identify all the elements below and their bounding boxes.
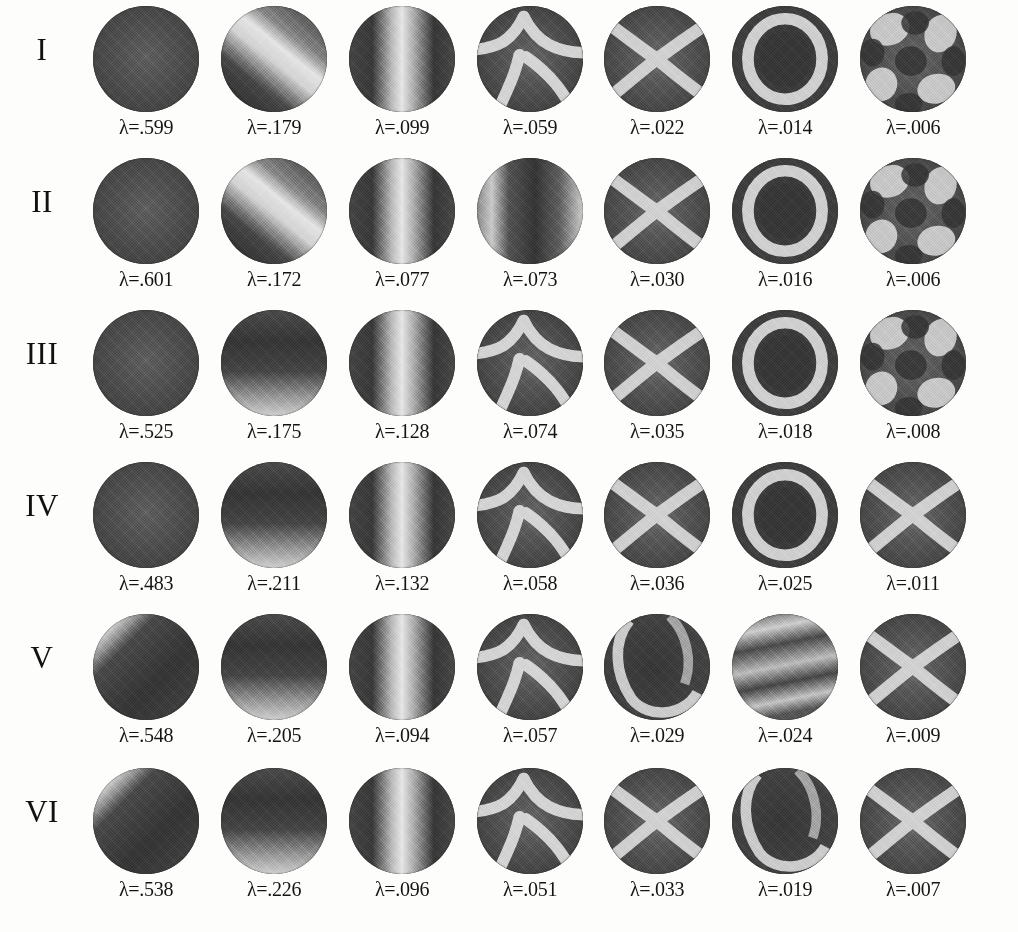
eigenmode-disk [93,158,199,264]
eigenmode-image [349,6,455,112]
eigenmode-image [732,6,838,112]
eigenvalue-label: λ=.094 [338,722,466,748]
eigenmode-image [860,462,966,568]
eigenmode-image [349,158,455,264]
eigenmode-cell: λ=.483 [82,456,210,608]
eigenvalue-label: λ=.538 [82,876,210,902]
eigenmode-cell: λ=.599 [82,0,210,152]
eigenmode-image [221,6,327,112]
eigenmode-disk [221,6,327,112]
eigenvalue-label: λ=.025 [721,570,849,596]
eigenmode-disk [732,462,838,568]
eigenmode-cell: λ=.099 [338,0,466,152]
eigenmode-figure: Iλ=.599λ=.179λ=.099λ=.059λ=.022λ=.014λ=.… [0,0,1018,932]
eigenmode-image [477,158,583,264]
eigenvalue-label: λ=.059 [466,114,594,140]
row-label-iv: IV [0,484,84,528]
eigenvalue-label: λ=.009 [849,722,977,748]
row-label-iii: III [0,332,84,376]
eigenmode-disk [477,462,583,568]
eigenvalue-label: λ=.016 [721,266,849,292]
eigenmode-disk [477,310,583,416]
eigenmode-disk [349,768,455,874]
eigenmode-image [604,310,710,416]
eigenmode-disk [860,614,966,720]
eigenmode-cell: λ=.175 [210,304,338,456]
eigenmode-cell: λ=.007 [849,762,977,914]
eigenvalue-label: λ=.057 [466,722,594,748]
eigenvalue-label: λ=.525 [82,418,210,444]
eigenmode-image [349,614,455,720]
row-label-vi: VI [0,790,84,834]
eigenmode-cell: λ=.006 [849,152,977,304]
eigenvalue-label: λ=.011 [849,570,977,596]
eigenmode-row: Iλ=.599λ=.179λ=.099λ=.059λ=.022λ=.014λ=.… [0,0,1018,155]
eigenmode-disk [93,6,199,112]
eigenmode-image [732,614,838,720]
eigenmode-image [477,614,583,720]
eigenmode-cell: λ=.179 [210,0,338,152]
eigenmode-cell: λ=.172 [210,152,338,304]
eigenvalue-label: λ=.036 [593,570,721,596]
row-label-i: I [0,28,84,72]
eigenvalue-label: λ=.077 [338,266,466,292]
eigenmode-cell: λ=.226 [210,762,338,914]
eigenmode-cell: λ=.036 [593,456,721,608]
eigenmode-image [477,462,583,568]
eigenmode-disk [349,6,455,112]
eigenvalue-label: λ=.175 [210,418,338,444]
eigenmode-disk [221,158,327,264]
eigenvalue-label: λ=.172 [210,266,338,292]
eigenmode-row: IIλ=.601λ=.172λ=.077λ=.073λ=.030λ=.016λ=… [0,152,1018,307]
eigenmode-disk [604,768,710,874]
eigenmode-image [93,768,199,874]
eigenvalue-label: λ=.008 [849,418,977,444]
eigenmode-disk [604,614,710,720]
eigenmode-image [477,768,583,874]
eigenvalue-label: λ=.226 [210,876,338,902]
eigenvalue-label: λ=.096 [338,876,466,902]
eigenmode-cell: λ=.009 [849,608,977,760]
eigenmode-row: IIIλ=.525λ=.175λ=.128λ=.074λ=.035λ=.018λ… [0,304,1018,459]
eigenmode-disk [477,158,583,264]
eigenmode-cell: λ=.074 [466,304,594,456]
eigenmode-cell: λ=.057 [466,608,594,760]
eigenmode-cell: λ=.022 [593,0,721,152]
eigenmode-disk [732,768,838,874]
eigenvalue-label: λ=.548 [82,722,210,748]
eigenvalue-label: λ=.051 [466,876,594,902]
eigenvalue-label: λ=.022 [593,114,721,140]
eigenvalue-label: λ=.014 [721,114,849,140]
eigenvalue-label: λ=.179 [210,114,338,140]
eigenmode-image [349,768,455,874]
eigenmode-image [732,158,838,264]
eigenmode-image [860,614,966,720]
eigenmode-image [221,462,327,568]
eigenmode-disk [732,6,838,112]
eigenmode-disk [93,462,199,568]
eigenmode-cell: λ=.019 [721,762,849,914]
eigenmode-disk [860,6,966,112]
eigenmode-image [221,310,327,416]
eigenmode-disk [732,310,838,416]
eigenmode-cell: λ=.006 [849,0,977,152]
eigenmode-image [732,310,838,416]
eigenmode-cell: λ=.538 [82,762,210,914]
eigenmode-image [860,768,966,874]
eigenvalue-label: λ=.132 [338,570,466,596]
eigenmode-cell: λ=.051 [466,762,594,914]
eigenmode-disk [349,614,455,720]
eigenmode-disk [221,462,327,568]
eigenmode-disk [221,310,327,416]
eigenmode-disk [221,614,327,720]
eigenmode-image [732,768,838,874]
eigenvalue-label: λ=.601 [82,266,210,292]
row-label-ii: II [0,180,84,224]
eigenmode-cell: λ=.073 [466,152,594,304]
eigenmode-image [860,6,966,112]
eigenmode-cell: λ=.016 [721,152,849,304]
eigenmode-disk [604,310,710,416]
eigenmode-image [604,6,710,112]
eigenmode-disk [860,310,966,416]
eigenvalue-label: λ=.019 [721,876,849,902]
